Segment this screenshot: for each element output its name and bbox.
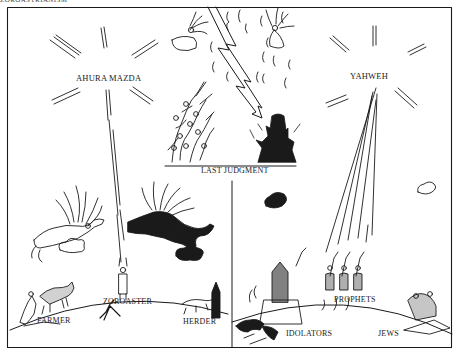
damned-souls-icon: [250, 114, 300, 162]
dark-cloud-right-icon: [265, 192, 287, 208]
zoroaster-figure-icon: [119, 258, 127, 300]
white-cloud-right-icon: [418, 182, 436, 194]
lightning-bolt-icon: [208, 7, 262, 118]
yahweh-rays-icon: [326, 26, 426, 252]
drawing-canvas: [0, 0, 456, 352]
dark-cloud-left-icon: [176, 246, 204, 261]
idolators-icon: [236, 320, 278, 345]
illustration: ZOROASTRIANISM: [0, 0, 456, 352]
ahura-mazda-label: AHURA MAZDA: [76, 74, 141, 83]
evil-spirit-icon: [128, 182, 214, 252]
farmer-label: FARMER: [37, 317, 71, 325]
prophets-label: PROPHETS: [334, 296, 376, 304]
saved-souls-icon: [168, 82, 214, 162]
angel-right-icon: [266, 8, 294, 48]
cropped-header-text: ZOROASTRIANISM: [0, 0, 78, 3]
yahweh-label: YAHWEH: [350, 72, 388, 81]
frame-border: [8, 8, 452, 348]
herder-icon: [182, 282, 220, 318]
herder-label: HERDER: [183, 318, 216, 326]
idolators-label: IDOLATORS: [286, 330, 332, 338]
good-spirit-icon: [32, 186, 105, 262]
zoroaster-label: ZOROASTER: [103, 298, 152, 306]
idol-icon: [249, 248, 306, 324]
angel-left-icon: [172, 12, 208, 51]
last-judgment-label: LAST JUDGMENT: [201, 167, 269, 175]
jews-label: JEWS: [378, 330, 399, 338]
jews-figures-icon: [404, 292, 450, 334]
